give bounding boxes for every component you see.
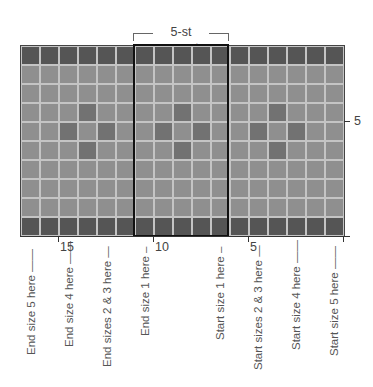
chart-cell — [136, 218, 153, 235]
chart-cell — [22, 123, 39, 140]
chart-cell — [174, 218, 191, 235]
chart-cell — [326, 161, 343, 178]
chart-cell — [250, 66, 267, 83]
chart-cell — [155, 218, 172, 235]
chart-cell — [60, 199, 77, 216]
chart-cell — [41, 142, 58, 159]
chart-cell — [98, 218, 115, 235]
chart-cell — [307, 142, 324, 159]
chart-cell — [136, 142, 153, 159]
chart-cell — [250, 199, 267, 216]
chart-cell — [60, 142, 77, 159]
chart-cell — [155, 180, 172, 197]
chart-cell — [250, 161, 267, 178]
chart-cell — [117, 123, 134, 140]
chart-cell — [250, 47, 267, 64]
chart-cell — [288, 66, 305, 83]
chart-cell — [269, 123, 286, 140]
chart-cell — [307, 123, 324, 140]
chart-cell — [155, 66, 172, 83]
chart-cell — [288, 218, 305, 235]
chart-cell — [60, 123, 77, 140]
chart-cell — [117, 180, 134, 197]
chart-cell — [60, 85, 77, 102]
chart-cell — [307, 180, 324, 197]
chart-cell — [269, 66, 286, 83]
chart-cell — [155, 85, 172, 102]
chart-cell — [136, 180, 153, 197]
chart-cell — [193, 199, 210, 216]
chart-cell — [174, 180, 191, 197]
chart-cell — [79, 142, 96, 159]
chart-cell — [117, 104, 134, 121]
chart-cell — [60, 180, 77, 197]
chart-cell — [250, 142, 267, 159]
chart-cell — [155, 199, 172, 216]
chart-cell — [212, 142, 229, 159]
chart-cell — [22, 66, 39, 83]
stitch-tick — [58, 236, 59, 242]
chart-cell — [41, 104, 58, 121]
chart-cell — [174, 85, 191, 102]
chart-cell — [174, 161, 191, 178]
chart-cell — [155, 142, 172, 159]
chart-cell — [269, 218, 286, 235]
chart-cell — [212, 180, 229, 197]
chart-cell — [155, 47, 172, 64]
chart-cell — [174, 66, 191, 83]
chart-cell — [79, 123, 96, 140]
chart-cell — [136, 66, 153, 83]
chart-cell — [41, 47, 58, 64]
chart-cell — [117, 66, 134, 83]
size-label: Start size 1 here – — [214, 247, 226, 340]
chart-cell — [231, 199, 248, 216]
chart-cell — [98, 199, 115, 216]
chart-cell — [41, 199, 58, 216]
chart-cell — [155, 104, 172, 121]
chart-cell — [136, 47, 153, 64]
chart-cell — [212, 66, 229, 83]
chart-cell — [60, 218, 77, 235]
chart-cell — [22, 142, 39, 159]
chart-cell — [22, 199, 39, 216]
chart-cell — [326, 180, 343, 197]
chart-cell — [79, 180, 96, 197]
chart-cell — [98, 47, 115, 64]
chart-cell — [212, 123, 229, 140]
chart-cell — [22, 161, 39, 178]
chart-cell — [326, 199, 343, 216]
chart-cell — [79, 85, 96, 102]
chart-cell — [212, 161, 229, 178]
chart-cell — [60, 66, 77, 83]
chart-cell — [41, 161, 58, 178]
chart-cell — [326, 123, 343, 140]
chart-cell — [250, 218, 267, 235]
chart-cell — [269, 85, 286, 102]
chart-cell — [79, 199, 96, 216]
chart-cell — [326, 85, 343, 102]
chart-cell — [136, 123, 153, 140]
row-marker-tick — [344, 121, 350, 122]
chart-cell — [269, 47, 286, 64]
chart-cell — [269, 161, 286, 178]
chart-cell — [193, 161, 210, 178]
chart-cell — [79, 218, 96, 235]
chart-cell — [98, 85, 115, 102]
chart-cell — [117, 47, 134, 64]
chart-cell — [269, 180, 286, 197]
chart-cell — [136, 199, 153, 216]
chart-cell — [307, 85, 324, 102]
chart-cell — [193, 47, 210, 64]
chart-cell — [79, 66, 96, 83]
size-label: Start size 4 here —— — [290, 240, 302, 350]
chart-cell — [98, 104, 115, 121]
chart-cell — [22, 218, 39, 235]
chart-cell — [269, 104, 286, 121]
chart-cell — [98, 161, 115, 178]
chart-cell — [98, 66, 115, 83]
chart-cell — [288, 199, 305, 216]
chart-cell — [288, 180, 305, 197]
chart-cell — [231, 85, 248, 102]
chart-cell — [41, 85, 58, 102]
chart-cell — [193, 85, 210, 102]
